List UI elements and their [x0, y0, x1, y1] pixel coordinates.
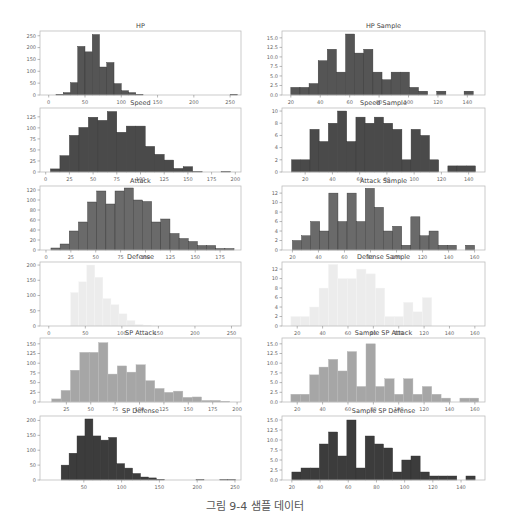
- x-tick-label: 250: [225, 99, 235, 105]
- bar: [292, 160, 301, 172]
- bar: [155, 154, 164, 172]
- y-tick-label: 100: [26, 292, 36, 298]
- y-tick-label: 5.0: [270, 379, 278, 385]
- bar: [155, 388, 164, 402]
- bars: [292, 420, 475, 480]
- x-tick-label: 160: [470, 330, 480, 336]
- x-tick-label: 40: [319, 330, 325, 336]
- bar: [385, 379, 394, 402]
- bar: [133, 473, 141, 480]
- bar: [310, 375, 319, 402]
- bar: [338, 456, 347, 480]
- bar: [402, 460, 411, 480]
- y-tick-label: 0: [33, 169, 36, 175]
- x-tick-label: 125: [159, 176, 169, 182]
- bar: [179, 239, 188, 251]
- x-tick-label: 80: [373, 484, 379, 490]
- x-tick-label: 60: [345, 484, 351, 490]
- bar: [70, 83, 77, 95]
- x-tick-label: 75: [117, 254, 123, 260]
- bar: [441, 398, 450, 402]
- y-tick-label: 50: [30, 308, 36, 314]
- bar: [136, 126, 145, 172]
- histogram-speed: 02550751001250255075100125150175200Speed: [40, 108, 241, 172]
- chart-title: HP: [136, 22, 145, 30]
- y-tick-label: 0.0: [270, 92, 278, 98]
- y-tick-label: 5.0: [270, 457, 278, 463]
- bar: [413, 312, 422, 326]
- bar: [385, 317, 394, 326]
- y-tick-label: 4: [275, 304, 278, 310]
- x-tick-label: 20: [288, 99, 294, 105]
- bar: [101, 440, 109, 480]
- bars: [292, 111, 476, 172]
- y-tick-label: 6: [275, 218, 278, 224]
- x-tick-label: 120: [418, 254, 428, 260]
- y-tick-label: 6: [275, 132, 278, 138]
- chart-title: Attack: [130, 177, 151, 185]
- y-tick-label: 7.5: [270, 370, 278, 376]
- bar: [404, 379, 413, 402]
- bar: [108, 374, 117, 402]
- bar: [375, 288, 384, 326]
- bar: [329, 193, 338, 250]
- bar: [95, 277, 103, 326]
- y-tick-label: 80: [30, 207, 36, 213]
- y-tick-label: 125: [26, 114, 36, 120]
- bars: [291, 264, 432, 326]
- bar: [80, 352, 89, 402]
- y-tick-label: 0: [33, 399, 36, 405]
- bar: [319, 444, 328, 480]
- y-tick-label: 0: [275, 323, 278, 329]
- bar: [173, 391, 182, 402]
- bar: [373, 72, 382, 95]
- bar: [127, 372, 136, 402]
- y-tick-label: 10: [272, 275, 278, 281]
- x-tick-label: 100: [400, 484, 410, 490]
- bar: [422, 386, 431, 402]
- x-tick-label: 20: [302, 176, 308, 182]
- bar: [106, 204, 115, 250]
- x-tick-label: 200: [190, 330, 200, 336]
- bar: [466, 166, 475, 172]
- y-tick-label: 15.0: [267, 35, 278, 41]
- y-tick-label: 12.5: [267, 350, 278, 356]
- chart-title: Attack Sample: [360, 177, 407, 185]
- bar: [404, 302, 413, 326]
- bar: [469, 398, 478, 402]
- bar: [466, 476, 475, 480]
- histogram-hp: 050100150200250050100150200250HP: [40, 31, 241, 95]
- y-tick-label: 12.5: [267, 427, 278, 433]
- y-tick-label: 6: [275, 294, 278, 300]
- bar: [97, 191, 106, 250]
- y-tick-label: 0: [33, 323, 36, 329]
- bar: [420, 236, 429, 250]
- x-tick-label: 250: [230, 484, 240, 490]
- bar: [366, 274, 375, 326]
- x-tick-label: 120: [428, 484, 438, 490]
- bar: [60, 156, 69, 172]
- bar: [393, 226, 402, 250]
- bar: [69, 231, 78, 250]
- bar: [60, 244, 69, 250]
- bar: [402, 160, 411, 172]
- bar: [70, 370, 79, 402]
- chart-title: Sample SP Attack: [355, 329, 413, 337]
- histogram-defense: 050100150200050100150200250Defense: [40, 262, 241, 326]
- y-tick-label: 0: [275, 169, 278, 175]
- histogram-sp-attack: 0255075100125150255075100125150175200SP …: [40, 338, 241, 402]
- bar: [320, 231, 329, 250]
- y-tick-label: 50: [30, 80, 36, 86]
- y-tick-label: 120: [26, 187, 36, 193]
- histogram-sample-sp-attack: 0.02.55.07.510.012.515.02040608010012014…: [282, 338, 485, 402]
- y-tick-label: 2: [275, 313, 278, 319]
- bar: [448, 166, 457, 172]
- x-tick-label: 40: [319, 406, 325, 412]
- bar: [393, 129, 402, 172]
- x-tick-label: 20: [294, 406, 300, 412]
- y-tick-label: 8: [275, 120, 278, 126]
- y-tick-label: 100: [26, 447, 36, 453]
- bar: [419, 91, 428, 95]
- bar: [87, 265, 95, 326]
- bar: [174, 168, 183, 172]
